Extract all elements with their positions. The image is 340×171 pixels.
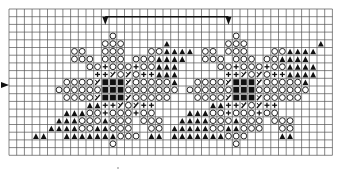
filled-triangle-icon <box>95 133 101 139</box>
open-circle-icon <box>241 41 247 47</box>
filled-triangle-icon <box>295 49 301 55</box>
open-circle-icon <box>164 95 170 101</box>
open-circle-icon <box>226 133 232 139</box>
open-circle-icon <box>241 118 247 124</box>
open-circle-icon <box>156 125 162 131</box>
open-circle-icon <box>233 48 239 54</box>
repeat-bracket <box>102 17 231 25</box>
filled-triangle-icon <box>187 118 193 124</box>
open-circle-icon <box>303 87 309 93</box>
plus-icon <box>149 72 154 77</box>
open-circle-icon <box>110 64 116 70</box>
open-circle-icon <box>172 87 178 93</box>
open-circle-icon <box>241 56 247 62</box>
open-circle-icon <box>210 79 216 85</box>
filled-triangle-icon <box>156 56 162 62</box>
open-circle-icon <box>133 56 139 62</box>
filled-triangle-icon <box>179 126 185 132</box>
open-circle-icon <box>249 64 255 70</box>
open-circle-icon <box>149 110 155 116</box>
open-circle-icon <box>110 33 116 39</box>
open-circle-icon <box>241 48 247 54</box>
open-circle-icon <box>218 56 224 62</box>
filled-square-icon <box>241 95 247 101</box>
open-circle-icon <box>133 87 139 93</box>
open-circle-icon <box>287 118 293 124</box>
filled-triangle-icon <box>187 49 193 55</box>
open-circle-icon <box>272 79 278 85</box>
filled-triangle-icon <box>110 133 116 139</box>
open-circle-icon <box>226 64 232 70</box>
filled-triangle-icon <box>179 118 185 124</box>
open-circle-icon <box>218 118 224 124</box>
open-circle-icon <box>210 48 216 54</box>
open-circle-icon <box>118 72 124 78</box>
open-circle-icon <box>87 64 93 70</box>
open-circle-icon <box>125 87 131 93</box>
open-circle-icon <box>156 118 162 124</box>
filled-triangle-icon <box>310 64 316 70</box>
open-circle-icon <box>110 141 116 147</box>
filled-square-icon <box>241 79 247 85</box>
open-circle-icon <box>279 64 285 70</box>
open-circle-icon <box>64 95 70 101</box>
open-circle-icon <box>133 133 139 139</box>
plus-icon <box>280 72 285 77</box>
filled-triangle-icon <box>187 133 193 139</box>
filled-triangle-icon <box>164 72 170 78</box>
open-circle-icon <box>272 87 278 93</box>
filled-square-icon <box>233 79 239 85</box>
filled-triangle-icon <box>87 103 93 109</box>
open-circle-icon <box>264 110 270 116</box>
open-circle-icon <box>156 95 162 101</box>
open-circle-icon <box>125 125 131 131</box>
filled-triangle-icon <box>210 133 216 139</box>
open-circle-icon <box>264 56 270 62</box>
filled-triangle-icon <box>233 118 239 124</box>
filled-triangle-icon <box>64 133 70 139</box>
filled-triangle-icon <box>156 133 162 139</box>
open-circle-icon <box>264 72 270 78</box>
open-circle-icon <box>279 95 285 101</box>
filled-triangle-icon <box>64 118 70 124</box>
slash-cell-icon <box>95 95 100 100</box>
open-circle-icon <box>79 87 85 93</box>
open-circle-icon <box>141 87 147 93</box>
open-circle-icon <box>249 118 255 124</box>
open-circle-icon <box>272 110 278 116</box>
open-circle-icon <box>149 56 155 62</box>
open-circle-icon <box>226 87 232 93</box>
open-circle-icon <box>72 95 78 101</box>
open-circle-icon <box>164 87 170 93</box>
open-circle-icon <box>110 48 116 54</box>
filled-triangle-icon <box>233 126 239 132</box>
slash-cell-icon <box>257 95 262 100</box>
filled-triangle-icon <box>48 126 54 132</box>
filled-triangle-icon <box>172 56 178 62</box>
open-circle-icon <box>79 48 85 54</box>
filled-triangle-icon <box>56 126 62 132</box>
open-circle-icon <box>226 118 232 124</box>
filled-triangle-icon <box>287 72 293 78</box>
slash-cell-icon <box>126 95 131 100</box>
open-circle-icon <box>287 79 293 85</box>
open-circle-icon <box>79 95 85 101</box>
filled-triangle-icon <box>202 118 208 124</box>
open-circle-icon <box>133 72 139 78</box>
open-circle-icon <box>279 48 285 54</box>
filled-square-icon <box>249 79 255 85</box>
open-circle-icon <box>210 125 216 131</box>
open-circle-icon <box>295 87 301 93</box>
open-circle-icon <box>141 56 147 62</box>
filled-triangle-icon <box>310 49 316 55</box>
slash-cell-icon <box>111 72 116 77</box>
row-marker-arrow-right-icon <box>1 82 9 88</box>
open-circle-icon <box>233 41 239 47</box>
open-circle-icon <box>156 48 162 54</box>
slash-cell-icon <box>126 79 131 84</box>
filled-triangle-icon <box>287 64 293 70</box>
open-circle-icon <box>110 110 116 116</box>
filled-triangle-icon <box>64 126 70 132</box>
open-circle-icon <box>125 133 131 139</box>
dot-mark <box>117 167 119 169</box>
